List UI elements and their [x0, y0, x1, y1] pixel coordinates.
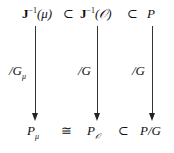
label-subscript: μ: [22, 72, 26, 81]
subset-relation-top-2: ⊂: [127, 7, 138, 20]
arrow-shaft-1: [35, 26, 36, 114]
argument: (μ): [37, 6, 52, 21]
arrow-label-quotient-g-3: /G: [132, 64, 145, 77]
p-symbol: P: [27, 123, 35, 138]
node-p-mod-g: P/G: [140, 124, 161, 137]
arrow-shaft-2: [97, 26, 98, 114]
arrow-head-3: [149, 113, 155, 121]
node-j-inverse-mu: J−1(μ): [22, 7, 52, 20]
arrow-head-2: [94, 113, 100, 121]
arrow-label-quotient-g-mu: /Gμ: [9, 64, 26, 77]
subset-relation-top-1: ⊂: [63, 7, 74, 20]
subscript: 𝒪: [95, 132, 100, 141]
node-j-inverse-orbit: J−1(𝒪): [80, 7, 112, 20]
arrow-shaft-3: [152, 26, 153, 114]
superscript: −1: [29, 6, 38, 15]
p-symbol: P: [87, 123, 95, 138]
isomorphism-relation: ≅: [61, 124, 72, 137]
argument: (𝒪): [95, 6, 112, 21]
subscript: μ: [35, 132, 39, 141]
arrow-label-quotient-g-2: /G: [78, 64, 91, 77]
subset-relation-bottom: ⊂: [118, 124, 129, 137]
node-p-mu: Pμ: [27, 124, 39, 137]
label-text: /G: [9, 63, 22, 78]
node-p: P: [147, 7, 155, 20]
node-p-orbit: P𝒪: [87, 124, 100, 137]
superscript: −1: [87, 6, 96, 15]
arrow-head-1: [32, 113, 38, 121]
